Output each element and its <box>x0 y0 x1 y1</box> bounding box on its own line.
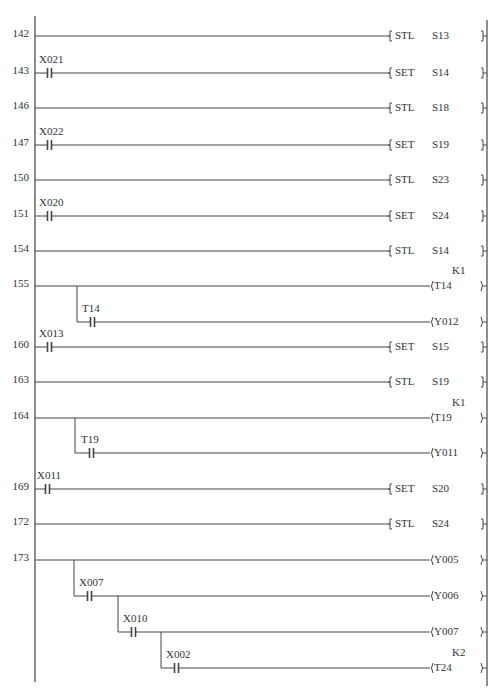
coil-operand: Y007 <box>434 625 458 637</box>
bracket-open-icon <box>390 68 392 78</box>
instruction-op: STL <box>395 29 415 41</box>
bracket-close-icon <box>481 140 487 150</box>
instruction-op: SET <box>395 340 415 352</box>
bracket-close-icon <box>481 68 487 78</box>
bracket-open-icon <box>390 31 392 41</box>
bracket-close-icon <box>481 31 487 41</box>
contact-label: X022 <box>39 125 63 137</box>
no-contact-icon <box>47 140 52 150</box>
bracket-open-icon <box>390 211 392 221</box>
step-number: 150 <box>3 171 29 183</box>
step-number: 155 <box>3 277 29 289</box>
coil-constant: K1 <box>452 264 465 276</box>
no-contact-icon <box>90 317 95 327</box>
coil-close-icon <box>481 591 487 601</box>
bracket-open-icon <box>390 519 392 529</box>
contact-label: X020 <box>39 196 63 208</box>
bracket-close-icon <box>481 519 487 529</box>
instruction-operand: S19 <box>432 138 449 150</box>
instruction-op: SET <box>395 209 415 221</box>
bracket-open-icon <box>390 246 392 256</box>
contact-label: T14 <box>82 302 100 314</box>
instruction-op: STL <box>395 517 415 529</box>
step-number: 163 <box>3 373 29 385</box>
coil-operand: Y006 <box>434 589 458 601</box>
bracket-open-icon <box>390 103 392 113</box>
coil-operand: Y005 <box>434 553 458 565</box>
bracket-open-icon <box>390 377 392 387</box>
coil-close-icon <box>481 413 487 423</box>
instruction-operand: S14 <box>432 66 449 78</box>
no-contact-icon <box>89 448 94 458</box>
bracket-close-icon <box>481 246 487 256</box>
bracket-open-icon <box>390 484 392 494</box>
bracket-close-icon <box>481 175 487 185</box>
instruction-op: STL <box>395 173 415 185</box>
coil-close-icon <box>481 448 487 458</box>
instruction-operand: S13 <box>432 29 449 41</box>
step-number: 151 <box>3 207 29 219</box>
instruction-op: STL <box>395 101 415 113</box>
bracket-close-icon <box>481 484 487 494</box>
step-number: 146 <box>3 99 29 111</box>
contact-label: X010 <box>123 612 147 624</box>
no-contact-icon <box>47 342 52 352</box>
coil-close-icon <box>481 281 487 291</box>
bracket-open-icon <box>390 140 392 150</box>
ladder-lines <box>0 0 498 696</box>
coil-open-icon <box>432 281 434 291</box>
bracket-close-icon <box>481 211 487 221</box>
contact-label: X013 <box>39 327 63 339</box>
bracket-open-icon <box>390 175 392 185</box>
instruction-operand: S14 <box>432 244 449 256</box>
coil-close-icon <box>481 627 487 637</box>
contact-label: X021 <box>39 53 63 65</box>
coil-operand: T14 <box>434 279 452 291</box>
coil-operand: T24 <box>434 661 452 673</box>
step-number: 164 <box>3 409 29 421</box>
no-contact-icon <box>45 484 50 494</box>
coil-open-icon <box>432 317 434 327</box>
coil-close-icon <box>481 317 487 327</box>
coil-open-icon <box>432 591 434 601</box>
step-number: 160 <box>3 338 29 350</box>
coil-open-icon <box>432 627 434 637</box>
coil-close-icon <box>481 555 487 565</box>
instruction-operand: S23 <box>432 173 449 185</box>
no-contact-icon <box>131 627 136 637</box>
coil-constant: K2 <box>452 646 465 658</box>
no-contact-icon <box>174 663 179 673</box>
no-contact-icon <box>47 211 52 221</box>
contact-label: X011 <box>37 469 61 481</box>
ladder-diagram: 142STLS13143X021SETS14146STLS18147X022SE… <box>0 0 498 696</box>
instruction-operand: S18 <box>432 101 449 113</box>
instruction-operand: S24 <box>432 209 449 221</box>
contact-label: X007 <box>79 576 103 588</box>
instruction-operand: S19 <box>432 375 449 387</box>
contact-label: T19 <box>81 433 99 445</box>
no-contact-icon <box>87 591 92 601</box>
instruction-op: STL <box>395 375 415 387</box>
contact-label: X002 <box>166 648 190 660</box>
step-number: 169 <box>3 480 29 492</box>
coil-operand: Y011 <box>434 446 458 458</box>
bracket-open-icon <box>390 342 392 352</box>
coil-open-icon <box>432 413 434 423</box>
step-number: 143 <box>3 64 29 76</box>
coil-open-icon <box>432 448 434 458</box>
coil-operand: Y012 <box>434 315 458 327</box>
coil-close-icon <box>481 663 487 673</box>
instruction-op: SET <box>395 66 415 78</box>
coil-operand: T19 <box>434 411 452 423</box>
coil-open-icon <box>432 663 434 673</box>
instruction-op: SET <box>395 138 415 150</box>
instruction-op: SET <box>395 482 415 494</box>
coil-open-icon <box>432 555 434 565</box>
no-contact-icon <box>47 68 52 78</box>
instruction-operand: S24 <box>432 517 449 529</box>
instruction-operand: S20 <box>432 482 449 494</box>
bracket-close-icon <box>481 342 487 352</box>
coil-constant: K1 <box>452 396 465 408</box>
bracket-close-icon <box>481 377 487 387</box>
instruction-op: STL <box>395 244 415 256</box>
